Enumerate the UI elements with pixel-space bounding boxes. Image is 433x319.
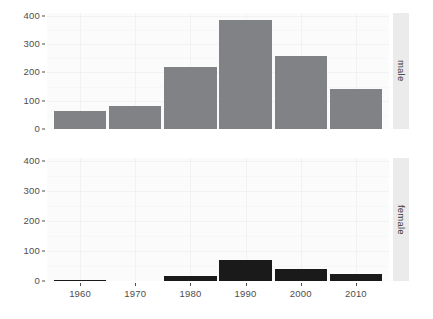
y-tick-label: 400 <box>24 11 40 21</box>
y-tick-mark <box>42 251 45 252</box>
bar <box>109 106 161 129</box>
gridline-minor <box>47 58 389 59</box>
y-tick-label: 100 <box>24 96 40 106</box>
x-axis: 196019701980199020002010 <box>0 283 433 313</box>
gridline-major <box>47 72 389 73</box>
gridline-major <box>47 251 389 252</box>
gridline-major-vertical <box>301 158 302 281</box>
x-tick-mark <box>135 283 136 286</box>
gridline-major-vertical <box>135 158 136 281</box>
gridline-minor <box>47 236 389 237</box>
x-tick-label: 1990 <box>235 289 257 299</box>
gridline-minor <box>47 266 389 267</box>
y-tick-mark <box>42 129 45 130</box>
bar <box>275 269 327 281</box>
facet-strip-label-female: female <box>396 205 406 235</box>
bar <box>219 20 271 129</box>
bar <box>219 260 271 281</box>
y-tick-mark <box>42 44 45 45</box>
bar <box>54 111 106 129</box>
x-tick-mark <box>246 283 247 286</box>
y-tick-label: 0 <box>35 124 40 134</box>
bar <box>330 89 382 129</box>
bar <box>164 67 216 129</box>
y-axis-male: 4003002001000 <box>0 13 40 129</box>
gridline-major-vertical <box>356 158 357 281</box>
x-tick-mark <box>356 283 357 286</box>
facet-strip-female: female <box>393 158 409 281</box>
bar <box>54 280 106 281</box>
facet-strip-label-male: male <box>396 60 406 81</box>
gridline-major <box>47 221 389 222</box>
y-tick-label: 100 <box>24 246 40 256</box>
gridline-minor <box>47 176 389 177</box>
y-tick-mark <box>42 15 45 16</box>
gridline-major-vertical <box>190 158 191 281</box>
y-tick-label: 200 <box>24 216 40 226</box>
y-tick-label: 300 <box>24 186 40 196</box>
x-tick-label: 2010 <box>345 289 367 299</box>
chart-container: 4003002001000 male 4003002001000 female … <box>0 0 433 319</box>
x-tick-label: 1960 <box>69 289 91 299</box>
gridline-major-vertical <box>80 158 81 281</box>
y-tick-label: 400 <box>24 156 40 166</box>
gridline-minor <box>47 87 389 88</box>
y-axis-female: 4003002001000 <box>0 158 40 281</box>
bar <box>275 56 327 129</box>
facet-strip-male: male <box>393 13 409 129</box>
x-tick-label: 1970 <box>124 289 146 299</box>
y-tick-mark <box>42 72 45 73</box>
gridline-major <box>47 44 389 45</box>
y-tick-label: 200 <box>24 68 40 78</box>
x-tick-mark <box>190 283 191 286</box>
gridline-major <box>47 161 389 162</box>
x-tick-label: 2000 <box>290 289 312 299</box>
y-tick-mark <box>42 221 45 222</box>
gridline-major <box>47 191 389 192</box>
y-tick-label: 300 <box>24 39 40 49</box>
y-tick-mark <box>42 281 45 282</box>
x-tick-mark <box>301 283 302 286</box>
gridline-minor <box>47 30 389 31</box>
gridline-major <box>47 16 389 17</box>
panel-female <box>47 158 389 281</box>
y-tick-mark <box>42 100 45 101</box>
gridline-minor <box>47 206 389 207</box>
bar <box>330 274 382 281</box>
bar <box>164 276 216 281</box>
y-tick-mark <box>42 161 45 162</box>
x-tick-label: 1980 <box>179 289 201 299</box>
x-tick-mark <box>80 283 81 286</box>
y-tick-mark <box>42 191 45 192</box>
panel-male <box>47 13 389 129</box>
